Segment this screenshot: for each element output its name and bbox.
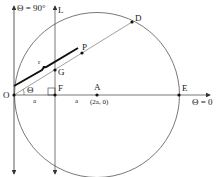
label-P: P — [82, 42, 87, 52]
point-O — [12, 93, 15, 96]
r-brace — [14, 48, 78, 86]
label-A: A — [94, 82, 101, 92]
label-theta: Θ — [27, 85, 34, 95]
label-A-coord: (2a, 0) — [90, 98, 109, 106]
label-r: r — [38, 58, 41, 66]
label-L: L — [58, 5, 64, 15]
label-theta-0: Θ = 0 — [192, 97, 213, 107]
point-E — [177, 93, 180, 96]
label-D: D — [135, 13, 142, 23]
label-F: F — [58, 83, 63, 93]
label-E: E — [182, 83, 188, 93]
point-D — [130, 20, 133, 23]
point-F — [53, 93, 56, 96]
point-G — [53, 68, 56, 71]
polar-diagram: Θ = 90° L D P r G O Θ F A (2a, 0) a a E … — [0, 0, 222, 177]
point-A — [95, 93, 98, 96]
label-theta-90: Θ = 90° — [17, 3, 46, 13]
label-a-2: a — [75, 97, 79, 105]
label-a-1: a — [33, 97, 37, 105]
label-G: G — [58, 67, 65, 77]
label-O: O — [3, 90, 10, 100]
theta-arc — [23, 89, 24, 95]
